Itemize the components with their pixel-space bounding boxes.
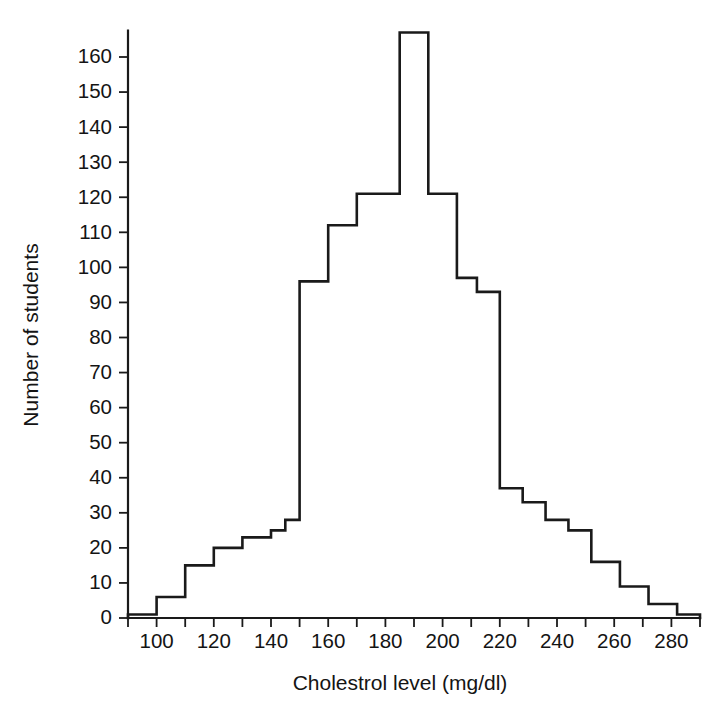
y-tick-label: 110 bbox=[79, 220, 112, 243]
y-tick-label: 80 bbox=[89, 325, 112, 348]
y-tick-label: 40 bbox=[89, 465, 112, 488]
y-tick-label: 90 bbox=[89, 290, 112, 313]
x-axis-ticks bbox=[128, 618, 700, 627]
x-tick-label: 120 bbox=[197, 629, 231, 652]
x-tick-label: 200 bbox=[425, 629, 459, 652]
y-tick-label: 70 bbox=[89, 360, 112, 383]
y-tick-label: 140 bbox=[78, 115, 112, 138]
x-tick-label: 260 bbox=[597, 629, 631, 652]
y-tick-label: 0 bbox=[101, 605, 112, 628]
y-tick-label: 60 bbox=[89, 395, 112, 418]
y-tick-label: 160 bbox=[78, 44, 112, 67]
y-tick-label: 150 bbox=[78, 79, 112, 102]
y-tick-label: 100 bbox=[78, 255, 112, 278]
x-tick-label: 140 bbox=[254, 629, 288, 652]
x-tick-label: 280 bbox=[654, 629, 688, 652]
x-tick-label: 180 bbox=[368, 629, 402, 652]
x-tick-label: 100 bbox=[139, 629, 173, 652]
y-tick-label: 10 bbox=[89, 570, 112, 593]
histogram-figure: Number of students Cholestrol level (mg/… bbox=[0, 0, 719, 720]
x-tick-label: 220 bbox=[483, 629, 517, 652]
y-axis-title: Number of students bbox=[19, 243, 42, 426]
y-tick-label: 130 bbox=[78, 150, 112, 173]
histogram-chart: Number of students Cholestrol level (mg/… bbox=[0, 0, 719, 720]
x-tick-label: 240 bbox=[540, 629, 574, 652]
y-tick-label: 50 bbox=[89, 430, 112, 453]
x-tick-label: 160 bbox=[311, 629, 345, 652]
y-tick-label: 20 bbox=[89, 535, 112, 558]
y-tick-label: 120 bbox=[78, 185, 112, 208]
y-tick-label: 30 bbox=[89, 500, 112, 523]
x-axis-title: Cholestrol level (mg/dl) bbox=[293, 671, 508, 694]
